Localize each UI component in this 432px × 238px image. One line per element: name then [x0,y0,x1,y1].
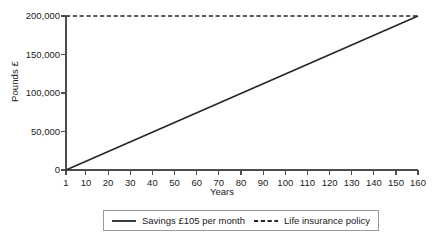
y-axis-tick-labels: 0 50,000 100,000 150,000 200,000 [4,0,60,238]
chart-legend: Savings £105 per month Life insurance po… [103,210,379,231]
y-tick-label-100000: 100,000 [6,88,60,98]
x-axis-ticks [66,170,418,175]
legend-label-life-insurance: Life insurance policy [284,216,370,226]
y-tick-label-50000: 50,000 [6,127,60,137]
legend-item-savings: Savings £105 per month [112,216,245,226]
y-tick-label-0: 0 [6,165,60,175]
series-savings-105-per-month [66,16,418,170]
legend-label-savings: Savings £105 per month [142,216,245,226]
chart-plot-area [0,0,432,238]
x-axis-title: Years [0,186,432,197]
legend-dashed-line-icon [254,217,278,225]
line-chart: Pounds £ 0 50,000 100,000 150,000 200,00… [0,0,432,238]
legend-solid-line-icon [112,217,136,225]
y-tick-label-150000: 150,000 [6,50,60,60]
y-tick-label-200000: 200,000 [6,11,60,21]
legend-item-life-insurance: Life insurance policy [254,216,370,226]
x-axis-title-text: Years [210,186,234,197]
y-axis-ticks [61,16,66,170]
